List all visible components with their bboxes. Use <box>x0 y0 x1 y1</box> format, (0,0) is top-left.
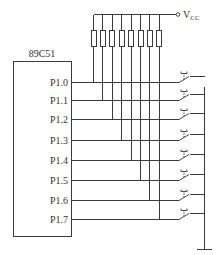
resistor-body <box>100 30 105 46</box>
port-row: P1.7 <box>50 209 205 226</box>
vcc-terminal <box>176 13 180 17</box>
push-button-switch <box>179 209 189 220</box>
pin-label: P1.3 <box>50 135 68 146</box>
resistor <box>119 15 124 141</box>
chip-label: 89C51 <box>29 48 56 59</box>
push-button-switch <box>179 170 189 181</box>
port-row: P1.3 <box>50 130 205 147</box>
resistor-body <box>129 30 134 46</box>
circuit-diagram: 89C51 VCC P1.0P1.1P1.2P1.3P1.4P1.5P1.6P1… <box>0 0 216 255</box>
port-rows: P1.0P1.1P1.2P1.3P1.4P1.5P1.6P1.7 <box>50 72 205 226</box>
push-button-switch <box>179 90 189 101</box>
resistor <box>91 15 96 83</box>
port-row: P1.6 <box>50 190 205 207</box>
port-row: P1.1 <box>50 90 205 107</box>
push-button-switch <box>179 72 189 83</box>
pin-label: P1.1 <box>50 95 68 106</box>
resistor <box>129 15 134 161</box>
resistor-body <box>157 30 162 46</box>
resistor-body <box>119 30 124 46</box>
pin-label: P1.5 <box>50 175 68 186</box>
push-button-switch <box>179 109 189 120</box>
resistor-body <box>147 30 152 46</box>
pin-label: P1.7 <box>50 214 68 225</box>
push-button-switch <box>179 190 189 201</box>
pin-label: P1.6 <box>50 195 68 206</box>
resistor <box>138 15 143 181</box>
pin-label: P1.2 <box>50 114 68 125</box>
pin-label: P1.4 <box>50 155 68 166</box>
push-button-switch <box>179 130 189 141</box>
vcc-label: VCC <box>183 9 200 22</box>
resistor-body <box>138 30 143 46</box>
resistor-body <box>110 30 115 46</box>
port-row: P1.0 <box>50 72 205 89</box>
resistor <box>147 15 152 201</box>
pin-label: P1.0 <box>50 77 68 88</box>
push-button-switch <box>179 150 189 161</box>
resistor-body <box>91 30 96 46</box>
port-row: P1.4 <box>50 150 205 167</box>
resistor <box>100 15 105 101</box>
port-row: P1.2 <box>50 109 205 126</box>
resistor <box>110 15 115 120</box>
pull-up-resistor-array <box>91 15 162 220</box>
resistor <box>157 15 162 220</box>
port-row: P1.5 <box>50 170 205 187</box>
